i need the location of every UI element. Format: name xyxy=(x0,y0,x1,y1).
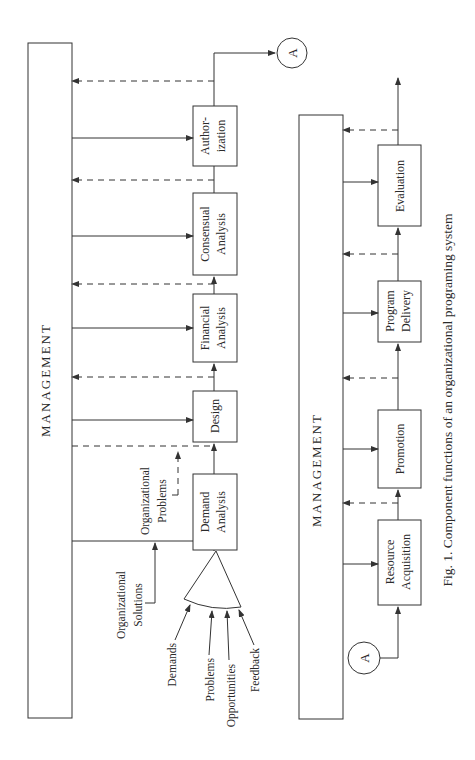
svg-text:Program: Program xyxy=(383,290,397,332)
label-problems: Problems xyxy=(204,657,216,701)
management-label-bottom: MANAGEMENT xyxy=(309,413,324,527)
box-demand-analysis: Demand Analysis xyxy=(193,474,237,550)
svg-text:Analysis: Analysis xyxy=(214,307,228,349)
box-authorization: Author- ization xyxy=(193,106,237,166)
svg-text:Acquisition: Acquisition xyxy=(399,534,413,590)
svg-text:Resource: Resource xyxy=(383,540,397,585)
box-consensual-analysis: Consensual Analysis xyxy=(193,193,237,275)
svg-text:Promotion: Promotion xyxy=(393,424,407,475)
org-programming-diagram: MANAGEMENT A Author- ization Consensual … xyxy=(0,0,475,760)
top-panel: MANAGEMENT A Author- ization Consensual … xyxy=(28,38,307,727)
figure-caption: Fig. 1. Component functions of an organi… xyxy=(440,213,455,587)
svg-text:Solutions: Solutions xyxy=(132,583,144,627)
svg-text:Analysis: Analysis xyxy=(214,491,228,533)
box-evaluation: Evaluation xyxy=(378,145,421,226)
box-resource-acquisition: Resource Acquisition xyxy=(378,520,421,605)
connector-a-bottom: A xyxy=(348,642,380,674)
svg-text:Evaluation: Evaluation xyxy=(393,160,407,212)
svg-text:Demand: Demand xyxy=(198,492,212,533)
svg-text:Design: Design xyxy=(208,399,222,433)
svg-text:ization: ization xyxy=(214,120,228,153)
bottom-panel: MANAGEMENT A Evaluation Program Delivery… xyxy=(299,78,421,719)
svg-text:Author-: Author- xyxy=(198,117,212,155)
label-organizational-problems: Organizational Problems xyxy=(139,467,168,535)
box-financial-analysis: Financial Analysis xyxy=(193,294,237,362)
svg-text:Organizational: Organizational xyxy=(115,571,128,639)
box-promotion: Promotion xyxy=(378,410,421,488)
input-labels: Demands Problems Opportunities Feedback xyxy=(166,642,261,727)
svg-text:Analysis: Analysis xyxy=(214,213,228,255)
svg-text:Delivery: Delivery xyxy=(399,290,413,332)
label-demands: Demands xyxy=(166,642,178,686)
input-funnel xyxy=(184,551,241,608)
connector-a-top: A xyxy=(277,38,307,68)
svg-text:Consensual: Consensual xyxy=(198,206,212,262)
svg-text:Financial: Financial xyxy=(198,305,212,350)
management-label-top: MANAGEMENT xyxy=(38,323,53,437)
svg-text:A: A xyxy=(285,48,300,58)
svg-text:Problems: Problems xyxy=(156,479,168,523)
svg-text:A: A xyxy=(357,653,372,663)
label-organizational-solutions: Organizational Solutions xyxy=(115,571,144,639)
box-program-delivery: Program Delivery xyxy=(378,281,421,342)
label-feedback: Feedback xyxy=(249,648,261,692)
box-design: Design xyxy=(193,391,237,442)
svg-text:Organizational: Organizational xyxy=(139,467,152,535)
label-opportunities: Opportunities xyxy=(225,663,238,727)
